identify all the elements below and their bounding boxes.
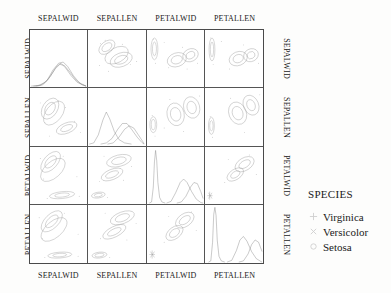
right-axis-label-sepallen: SEPALLEN bbox=[266, 88, 307, 147]
splom-cell-petallen-petalwid bbox=[147, 205, 205, 263]
splom-cell-sepallen-petalwid bbox=[147, 88, 205, 146]
bottom-axis-label-petalwid: PETALWID bbox=[147, 267, 206, 283]
bottom-axis-label-sepallen: SEPALLEN bbox=[88, 267, 147, 283]
splom-cell-petalwid-petalwid bbox=[147, 147, 205, 205]
splom-grid bbox=[30, 30, 263, 263]
splom-cell-petallen-sepalwid bbox=[30, 205, 88, 263]
splom-cell-sepalwid-sepallen bbox=[88, 30, 146, 88]
scatterplot-matrix bbox=[29, 29, 264, 264]
right-axis-label-petallen: PETALLEN bbox=[266, 205, 307, 264]
splom-cell-sepallen-sepallen bbox=[88, 88, 146, 146]
bottom-axis-label-sepalwid: SEPALWID bbox=[29, 267, 88, 283]
right-axis-label-column: SEPALWID SEPALLEN PETALWID PETALLEN bbox=[266, 29, 284, 264]
circle-marker-icon bbox=[306, 240, 320, 254]
legend-label-versicolor: Versicolor bbox=[323, 226, 368, 238]
legend-label-setosa: Setosa bbox=[323, 241, 352, 253]
splom-cell-petallen-sepallen bbox=[88, 205, 146, 263]
species-legend: SPECIES Virginica Versicolor Setosa bbox=[306, 188, 388, 254]
splom-cell-petalwid-petallen bbox=[205, 147, 263, 205]
x-marker-icon bbox=[306, 225, 320, 239]
legend-item-virginica[interactable]: Virginica bbox=[306, 209, 388, 224]
top-axis-label-petallen: PETALLEN bbox=[205, 10, 264, 26]
right-axis-label-sepallen-text: SEPALLEN bbox=[282, 97, 291, 138]
top-axis-label-row: SEPALWID SEPALLEN PETALWID PETALLEN bbox=[29, 10, 264, 26]
top-axis-label-sepalwid: SEPALWID bbox=[29, 10, 88, 26]
right-axis-label-petalwid: PETALWID bbox=[266, 147, 307, 206]
bottom-axis-label-row: SEPALWID SEPALLEN PETALWID PETALLEN bbox=[29, 267, 264, 283]
right-axis-label-sepalwid: SEPALWID bbox=[266, 29, 307, 88]
plus-marker-icon bbox=[306, 210, 320, 224]
splom-cell-sepalwid-sepalwid bbox=[30, 30, 88, 88]
right-axis-label-sepalwid-text: SEPALWID bbox=[282, 38, 291, 79]
right-axis-label-petalwid-text: PETALWID bbox=[282, 155, 291, 196]
splom-cell-sepallen-petallen bbox=[205, 88, 263, 146]
splom-cell-sepallen-sepalwid bbox=[30, 88, 88, 146]
legend-label-virginica: Virginica bbox=[323, 211, 364, 223]
splom-cell-petallen-petallen bbox=[205, 205, 263, 263]
bottom-axis-label-petallen: PETALLEN bbox=[205, 267, 264, 283]
right-axis-label-petallen-text: PETALLEN bbox=[282, 214, 291, 255]
top-axis-label-petalwid: PETALWID bbox=[147, 10, 206, 26]
left-axis-label-column: SEPALWID SEPALLEN PETALWID PETALLEN bbox=[8, 29, 26, 264]
legend-item-setosa[interactable]: Setosa bbox=[306, 239, 388, 254]
splom-cell-sepalwid-petallen bbox=[205, 30, 263, 88]
legend-title: SPECIES bbox=[308, 188, 388, 200]
splom-cell-sepalwid-petalwid bbox=[147, 30, 205, 88]
top-axis-label-sepallen: SEPALLEN bbox=[88, 10, 147, 26]
splom-cell-petalwid-sepalwid bbox=[30, 147, 88, 205]
legend-item-versicolor[interactable]: Versicolor bbox=[306, 224, 388, 239]
splom-cell-petalwid-sepallen bbox=[88, 147, 146, 205]
